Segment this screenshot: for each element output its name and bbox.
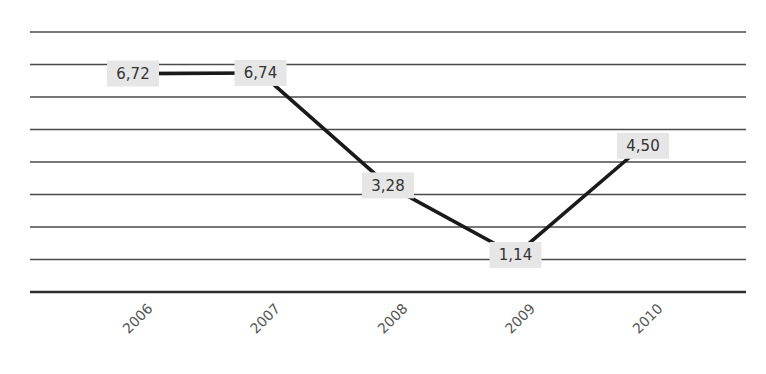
x-tick-label: 2009 <box>502 300 539 337</box>
data-label-text: 3,28 <box>371 177 404 195</box>
x-axis-tick-labels: 20062007200820092010 <box>119 300 666 337</box>
data-label-text: 6,72 <box>116 65 149 83</box>
x-tick-label: 2010 <box>629 300 666 337</box>
data-label: 6,74 <box>235 60 287 86</box>
x-tick-label: 2007 <box>247 300 284 337</box>
x-tick-label: 2006 <box>119 300 156 337</box>
data-label: 4,50 <box>617 133 669 159</box>
data-label: 1,14 <box>490 242 542 268</box>
x-tick-label: 2008 <box>374 300 411 337</box>
data-label-text: 6,74 <box>244 64 277 82</box>
data-label-text: 4,50 <box>626 137 659 155</box>
line-chart: 6,726,743,281,144,50 2006200720082009201… <box>0 0 766 374</box>
data-labels: 6,726,743,281,144,50 <box>107 60 669 268</box>
data-label-text: 1,14 <box>499 246 532 264</box>
data-label: 6,72 <box>107 61 159 87</box>
data-label: 3,28 <box>362 172 414 198</box>
